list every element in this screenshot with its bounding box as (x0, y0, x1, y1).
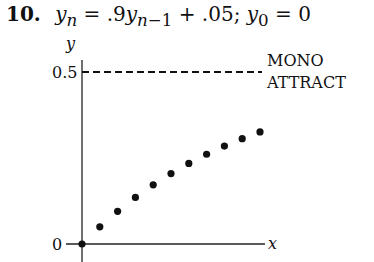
data-point (78, 240, 85, 247)
data-point (203, 151, 210, 158)
ytick-0: 0 (52, 235, 62, 254)
data-points (78, 128, 263, 247)
data-point (256, 128, 263, 135)
chart: y x 0 0.5 MONO ATTRACT (0, 0, 374, 262)
data-point (114, 208, 121, 215)
y-axis-label: y (65, 34, 76, 53)
annotation-line-1: MONO (267, 51, 324, 70)
x-axis-label: x (268, 234, 277, 253)
data-point (239, 135, 246, 142)
ytick-0.5: 0.5 (52, 63, 77, 82)
annotation-line-2: ATTRACT (266, 73, 346, 92)
data-point (185, 160, 192, 167)
data-point (150, 181, 157, 188)
data-point (132, 194, 139, 201)
data-point (96, 223, 103, 230)
data-point (221, 142, 228, 149)
data-point (167, 170, 174, 177)
